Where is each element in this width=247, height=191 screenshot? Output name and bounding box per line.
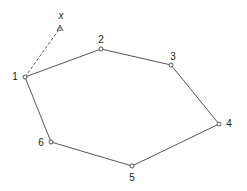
- vertex-4-marker: [217, 122, 221, 126]
- polygon-diagram: [0, 0, 247, 191]
- vertex-2-label: 2: [98, 35, 104, 45]
- vertex-1-marker: [23, 75, 27, 79]
- dashed-edge-1-to-x: [25, 28, 60, 77]
- vertex-5-marker: [130, 164, 134, 168]
- vertex-2-marker: [99, 47, 103, 51]
- vertex-5-label: 5: [129, 173, 135, 183]
- vertex-1-label: 1: [12, 72, 18, 82]
- vertex-4-label: 4: [226, 119, 232, 129]
- vertex-6-label: 6: [38, 138, 44, 148]
- vertex-6-marker: [49, 140, 53, 144]
- vertex-3-marker: [169, 63, 173, 67]
- vertex-3-label: 3: [170, 52, 176, 62]
- polygon-outline: [25, 49, 219, 166]
- x-point-label: x: [59, 11, 64, 21]
- x-point-marker: [59, 28, 62, 31]
